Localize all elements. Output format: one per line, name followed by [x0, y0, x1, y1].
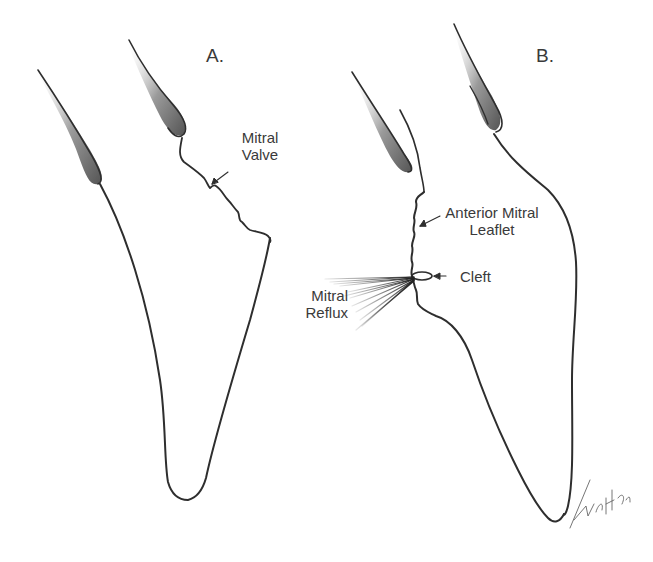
mitral-cleft-diagram: A. B. Mitral Valve Anterior Mitral Leafl… — [0, 0, 653, 562]
cleft-label: Cleft — [460, 268, 491, 285]
cleft-opening — [412, 272, 432, 280]
mitral-valve-label-line1: Mitral — [230, 129, 290, 146]
panel-b-right-leaf-shade — [452, 22, 500, 130]
anterior-mitral-leaflet-line2: Leaflet — [432, 221, 552, 238]
panel-a-left-leaf-shade — [34, 66, 102, 184]
diagram-drawing — [0, 0, 653, 562]
panel-b-label: B. — [536, 47, 554, 64]
panel-a-label: A. — [206, 47, 224, 64]
panel-a-right-leaf-shade — [126, 40, 185, 136]
mitral-valve-label: Mitral Valve — [230, 129, 290, 163]
mitral-reflux-line1: Mitral — [292, 287, 348, 304]
artist-signature — [570, 480, 630, 528]
mitral-reflux-label: Mitral Reflux — [292, 287, 348, 321]
anterior-mitral-leaflet-label: Anterior Mitral Leaflet — [432, 204, 552, 238]
mitral-valve-label-line2: Valve — [230, 146, 290, 163]
panel-a-heart — [34, 40, 271, 500]
mitral-reflux-line2: Reflux — [292, 304, 348, 321]
anterior-mitral-leaflet-line1: Anterior Mitral — [432, 204, 552, 221]
